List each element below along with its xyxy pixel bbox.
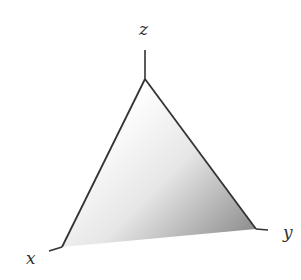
- shaded-plane-triangle: [62, 79, 256, 247]
- y-axis-stub: [256, 229, 268, 230]
- x-axis-label: x: [26, 248, 36, 268]
- z-axis-label: z: [138, 19, 149, 39]
- y-axis-label: y: [282, 222, 293, 242]
- x-axis-stub: [49, 247, 62, 251]
- plane-diagram: z x y: [0, 0, 301, 280]
